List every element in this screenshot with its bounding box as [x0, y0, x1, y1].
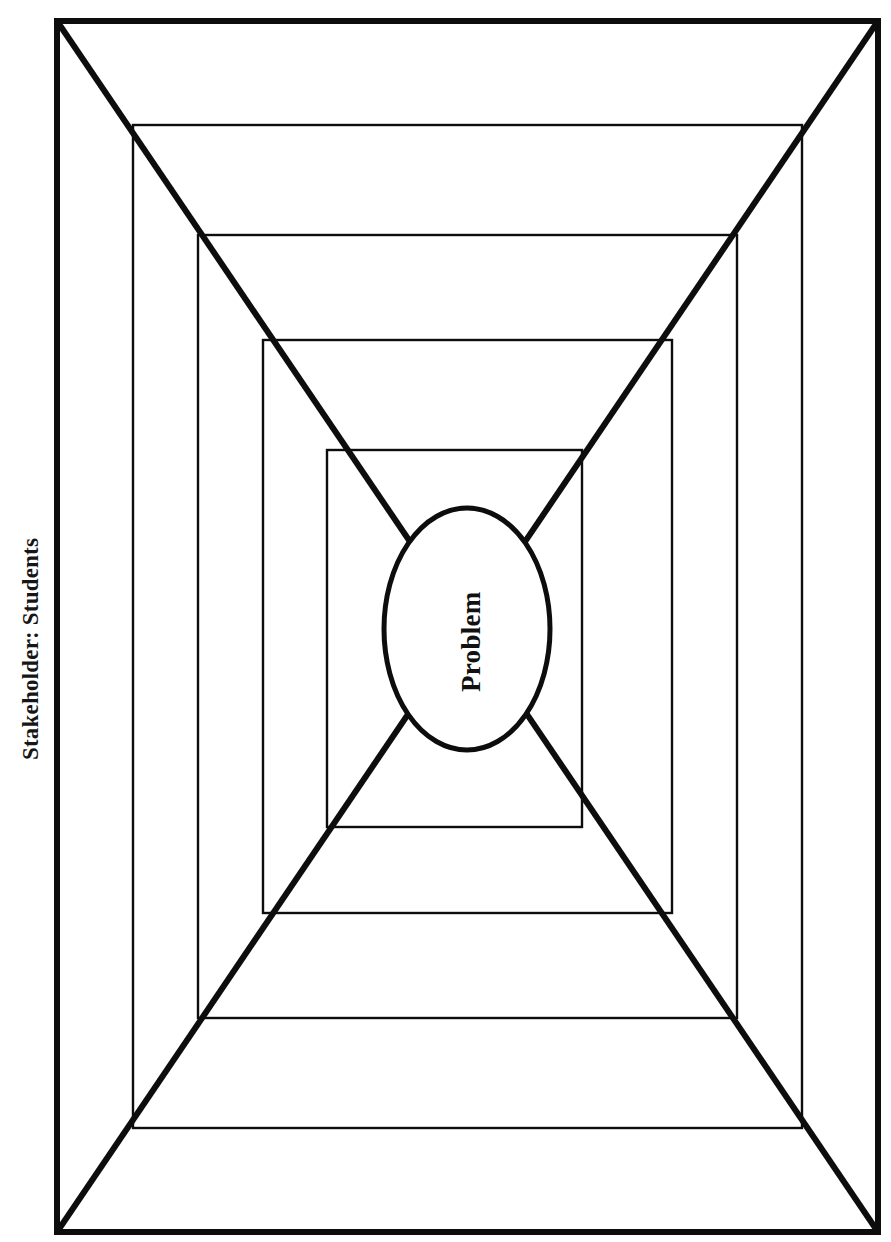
problem-ellipse — [384, 508, 550, 750]
diagram-page: Stakeholder: Students Problem — [0, 0, 891, 1242]
onion-diagram-canvas — [0, 0, 891, 1242]
